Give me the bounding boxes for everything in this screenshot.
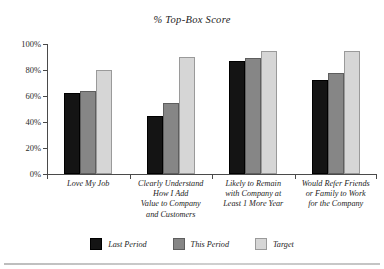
y-axis-tick-label: 40% (25, 117, 41, 127)
bar (245, 58, 261, 174)
bar (80, 91, 96, 174)
plot-area: 100%80%60%40%20%0% (47, 44, 377, 174)
legend-item[interactable]: This Period (173, 238, 229, 250)
bar (96, 70, 112, 174)
legend-label: Last Period (108, 240, 146, 249)
footer-divider (4, 263, 380, 265)
y-axis-tick-label: 60% (25, 91, 41, 101)
category-label: Love My Job (47, 179, 130, 189)
bar (261, 51, 277, 175)
legend-label: This Period (191, 240, 229, 249)
y-axis-tick (43, 148, 47, 149)
bar (312, 80, 328, 174)
bar (179, 57, 195, 174)
category-label-line: for the Company (295, 199, 378, 209)
y-axis-tick-label: 20% (25, 143, 41, 153)
category-label-line: Love My Job (47, 179, 130, 189)
category-label-line: Clearly Understand (130, 179, 213, 189)
bar-chart: % Top-Box Score 100%80%60%40%20%0% Love … (0, 0, 384, 269)
legend-swatch-icon (90, 238, 102, 250)
legend-swatch-icon (255, 238, 267, 250)
category-label-line: and Customers (130, 210, 213, 220)
category-label-line: with Company at (212, 189, 295, 199)
y-axis-tick (43, 96, 47, 97)
bar (163, 103, 179, 175)
category-label-line: Least 1 More Year (212, 199, 295, 209)
legend-item[interactable]: Last Period (90, 238, 146, 250)
y-axis-tick (43, 44, 47, 45)
legend-item[interactable]: Target (255, 238, 294, 250)
category-label-line: or Family to Work (295, 189, 378, 199)
bar (229, 61, 245, 174)
chart-legend: Last PeriodThis PeriodTarget (0, 238, 384, 250)
y-axis-tick-label: 0% (30, 169, 41, 179)
chart-title: % Top-Box Score (0, 14, 384, 25)
legend-swatch-icon (173, 238, 185, 250)
y-axis-tick-label: 100% (21, 39, 41, 49)
bar (147, 116, 163, 175)
category-label-line: How I Add (130, 189, 213, 199)
category-label-line: Would Refer Friends (295, 179, 378, 189)
category-label-line: Likely to Remain (212, 179, 295, 189)
bar (328, 73, 344, 174)
y-axis-tick (43, 122, 47, 123)
y-axis-tick-label: 80% (25, 65, 41, 75)
bar (344, 51, 360, 175)
category-label: Likely to Remainwith Company atLeast 1 M… (212, 179, 295, 210)
category-label: Would Refer Friendsor Family to Workfor … (295, 179, 378, 210)
bar (64, 93, 80, 174)
y-axis-line (47, 44, 48, 175)
legend-label: Target (273, 240, 294, 249)
category-label: Clearly UnderstandHow I AddValue to Comp… (130, 179, 213, 220)
y-axis-tick (43, 70, 47, 71)
category-label-line: Value to Company (130, 199, 213, 209)
